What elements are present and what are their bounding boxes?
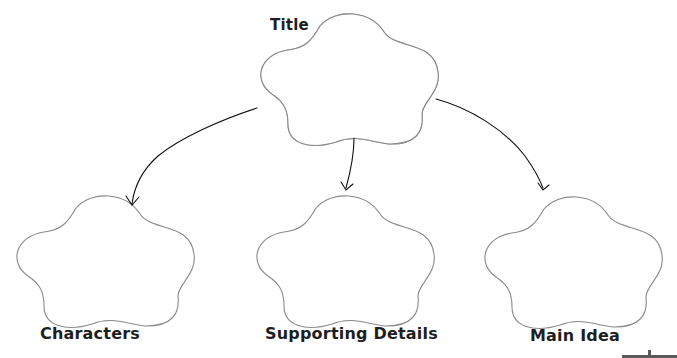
main-idea-label: Main Idea	[530, 326, 620, 345]
diagram-drawing	[0, 0, 677, 358]
graphic-organizer: Title Characters Supporting Details Main…	[0, 0, 677, 358]
supporting-details-label: Supporting Details	[265, 324, 438, 343]
characters-label: Characters	[40, 324, 140, 343]
title-label: Title	[270, 16, 309, 34]
main-idea-bubble[interactable]	[485, 197, 662, 329]
characters-bubble[interactable]	[17, 196, 194, 328]
arrow-title-to-characters	[126, 108, 257, 205]
supporting-details-bubble[interactable]	[257, 196, 434, 328]
corner-mark-stem	[648, 350, 651, 358]
arrow-title-to-main-idea	[436, 99, 549, 190]
arrow-title-to-supporting-details	[341, 138, 354, 190]
